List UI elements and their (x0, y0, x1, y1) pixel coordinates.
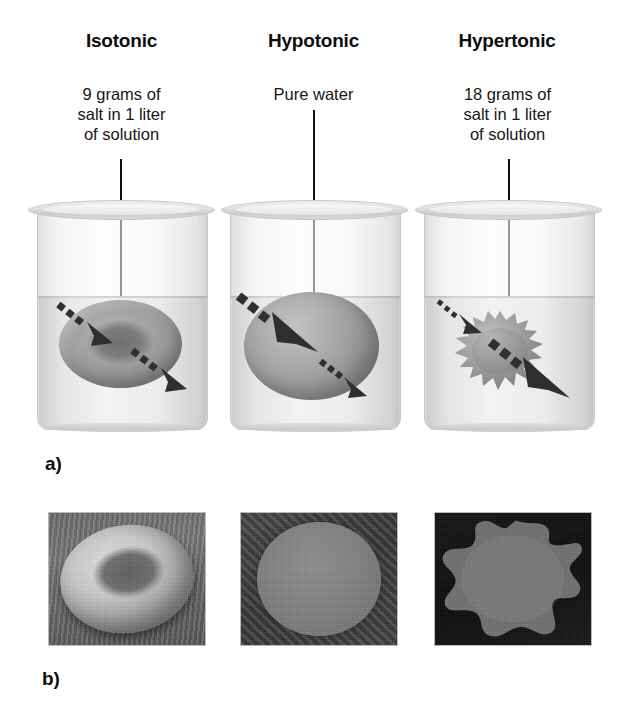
water-in-arrow-hypertonic (437, 299, 482, 334)
water-in-arrow-hypotonic (236, 292, 318, 352)
water-out-arrow-hypotonic (319, 359, 367, 398)
micrograph-isotonic (48, 512, 206, 646)
micrograph-cell-crenated (441, 518, 585, 639)
osmosis-arrows-isotonic (37, 200, 206, 430)
micrograph-cell-sphere (257, 522, 382, 636)
water-in-arrow-isotonic (56, 302, 113, 346)
column-title-hypertonic: Hypertonic (414, 30, 600, 52)
micrograph-hypertonic (434, 512, 592, 646)
column-title-hypotonic: Hypotonic (222, 30, 405, 52)
column-description-hypotonic: Pure water (222, 84, 405, 104)
water-out-arrow-isotonic (130, 348, 187, 392)
micrograph-hypotonic (240, 512, 398, 646)
tonicity-figure: Isotonic Hypotonic Hypertonic 9 grams of… (0, 0, 619, 710)
water-out-arrow-hypertonic (488, 338, 570, 398)
beaker-hypotonic (230, 200, 399, 430)
beaker-isotonic (37, 200, 206, 430)
column-description-isotonic: 9 grams of salt in 1 liter of solution (40, 84, 203, 144)
panel-label-a: a) (45, 453, 62, 475)
beaker-hypertonic (424, 200, 593, 430)
panel-label-b: b) (42, 668, 60, 690)
column-title-isotonic: Isotonic (28, 30, 215, 52)
column-description-hypertonic: 18 grams of salt in 1 liter of solution (425, 84, 590, 144)
osmosis-arrows-hypotonic (230, 200, 399, 430)
micrograph-cell-biconcave (53, 516, 201, 642)
osmosis-arrows-hypertonic (424, 200, 593, 430)
